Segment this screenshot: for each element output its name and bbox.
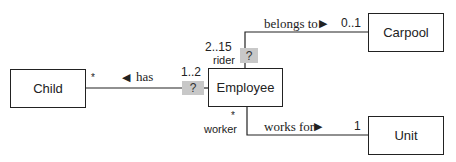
- class-child-name: Child: [33, 81, 63, 96]
- works-for-direction-arrow-icon: ▶: [314, 121, 322, 132]
- has-child-multiplicity: *: [91, 73, 95, 83]
- works-for-label: works for: [264, 120, 314, 133]
- belongs-to-employee-multiplicity: 2..15: [205, 41, 232, 53]
- works-for-employee-multiplicity: *: [231, 111, 235, 121]
- class-employee[interactable]: Employee: [208, 68, 283, 107]
- uml-class-diagram: Child Employee Carpool Unit * ◀ has 1..2…: [0, 0, 456, 162]
- has-employee-multiplicity: 1..2: [181, 66, 201, 78]
- belongs-to-label: belongs to: [264, 17, 318, 30]
- class-employee-name: Employee: [217, 80, 275, 95]
- class-unit-name: Unit: [394, 128, 417, 143]
- belongs-to-role-rider: rider: [213, 55, 235, 66]
- belongs-to-direction-arrow-icon: ▶: [319, 18, 327, 29]
- has-direction-arrow-icon: ◀: [122, 72, 130, 83]
- has-label: has: [136, 70, 153, 83]
- class-unit[interactable]: Unit: [368, 116, 444, 155]
- works-for-unit-multiplicity: 1: [354, 120, 361, 132]
- belongs-to-qualifier: ?: [240, 48, 258, 63]
- class-carpool-name: Carpool: [383, 25, 429, 40]
- class-carpool[interactable]: Carpool: [368, 13, 444, 52]
- class-child[interactable]: Child: [10, 69, 86, 108]
- belongs-to-carpool-multiplicity: 0..1: [341, 17, 361, 29]
- works-for-role-worker: worker: [204, 124, 237, 135]
- has-qualifier: ?: [182, 81, 204, 95]
